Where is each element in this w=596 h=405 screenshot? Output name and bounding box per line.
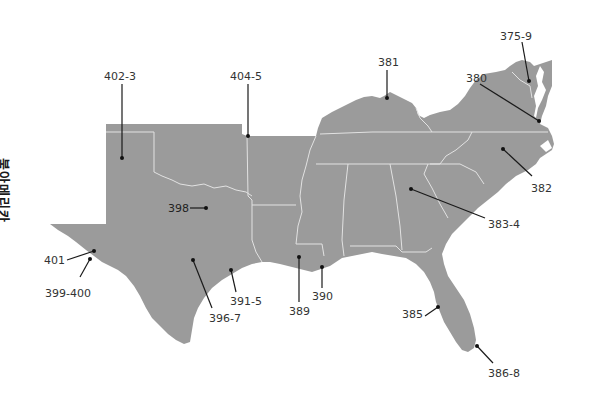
callout-398: 398	[168, 202, 189, 215]
callout-404-5: 404-5	[230, 70, 262, 83]
callout-391-5: 391-5	[230, 295, 262, 308]
callout-385: 385	[402, 308, 423, 321]
callout-401: 401	[44, 254, 65, 267]
callout-383-4: 383-4	[488, 218, 520, 231]
callout-381: 381	[378, 56, 399, 69]
callout-375-9: 375-9	[500, 30, 532, 43]
callout-390: 390	[312, 290, 333, 303]
callout-382: 382	[531, 182, 552, 195]
map: 375-9 380 381 382 383-4 385 386-8 389 39…	[0, 0, 596, 405]
callout-380: 380	[466, 72, 487, 85]
callout-389: 389	[289, 305, 310, 318]
callout-399-400: 399-400	[45, 287, 91, 300]
callout-386-8: 386-8	[488, 367, 520, 380]
callout-396-7: 396-7	[209, 312, 241, 325]
callout-402-3: 402-3	[104, 70, 136, 83]
